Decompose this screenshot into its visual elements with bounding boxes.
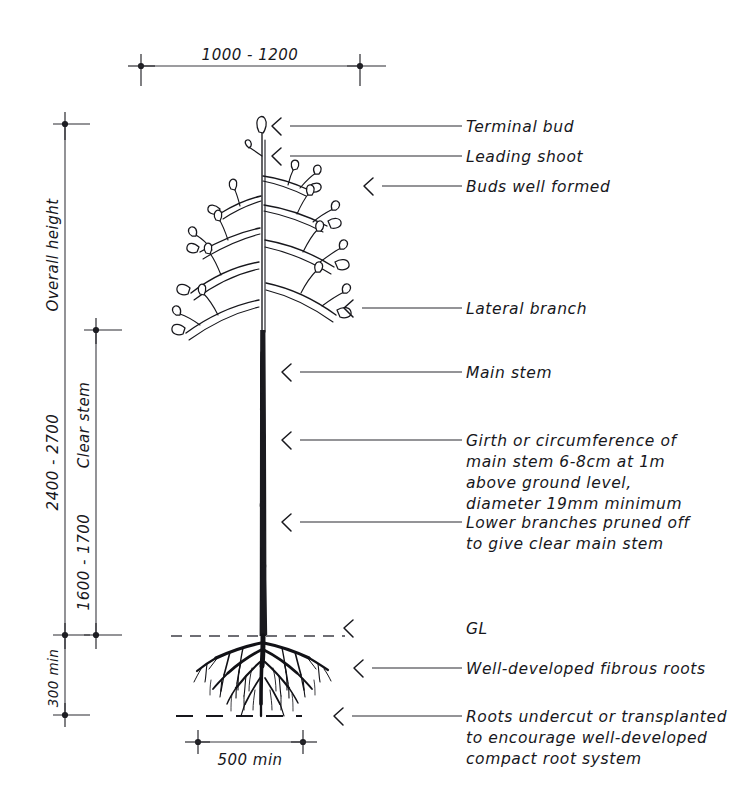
callout-buds-well-formed-label: Buds well formed bbox=[466, 178, 610, 196]
tree-crown bbox=[172, 117, 351, 340]
callout-ground-level: GL bbox=[344, 620, 488, 638]
diagram-canvas: 1000 - 1200 Overall height 2400 - 2700 3… bbox=[0, 0, 752, 810]
callout-terminal-bud: Terminal bud bbox=[272, 118, 574, 136]
callout-lateral-branch: Lateral branch bbox=[344, 300, 587, 318]
callout-girth-line-2: main stem 6-8cm at 1m bbox=[466, 453, 665, 471]
callout-main-stem: Main stem bbox=[282, 364, 552, 382]
dimension-clear-stem-value: 1600 - 1700 bbox=[75, 514, 93, 611]
callout-girth-line-4: diameter 19mm minimum bbox=[466, 495, 682, 513]
callout-roots-undercut: Roots undercut or transplanted to encour… bbox=[334, 708, 727, 768]
main-stem bbox=[260, 330, 268, 636]
terminal-bud-shape bbox=[257, 117, 266, 133]
callout-girth-line-3: above ground level, bbox=[466, 474, 632, 492]
dimension-overall-height-value: 2400 - 2700 bbox=[44, 414, 62, 511]
dimension-clear-stem: Clear stem 1600 - 1700 bbox=[75, 318, 122, 649]
callout-terminal-bud-label: Terminal bud bbox=[466, 118, 574, 136]
callout-buds-well-formed: Buds well formed bbox=[364, 178, 610, 196]
root-system bbox=[194, 636, 331, 716]
callout-roots-undercut-line-1: Roots undercut or transplanted bbox=[466, 708, 727, 726]
callout-leading-shoot: Leading shoot bbox=[272, 148, 583, 166]
callout-lateral-branch-label: Lateral branch bbox=[466, 300, 587, 318]
callout-leading-shoot-label: Leading shoot bbox=[466, 148, 583, 166]
callout-girth-line-1: Girth or circumference of bbox=[466, 432, 679, 450]
callout-ground-level-label: GL bbox=[466, 620, 488, 638]
dimension-crown-width: 1000 - 1200 bbox=[128, 46, 386, 86]
callout-fibrous-roots-label: Well-developed fibrous roots bbox=[466, 660, 706, 678]
dimension-overall-height-name: Overall height bbox=[44, 198, 62, 312]
callout-lower-branches-line-1: Lower branches pruned off bbox=[466, 514, 692, 532]
dimension-root-spread: 500 min bbox=[185, 730, 317, 769]
callout-lower-branches-line-2: to give clear main stem bbox=[466, 535, 664, 553]
callout-roots-undercut-line-2: to encourage well-developed bbox=[466, 729, 708, 747]
dimension-clear-stem-name: Clear stem bbox=[75, 382, 93, 469]
dimension-root-spread-label: 500 min bbox=[217, 751, 282, 769]
dimension-crown-width-label: 1000 - 1200 bbox=[202, 46, 299, 64]
callout-main-stem-label: Main stem bbox=[466, 364, 552, 382]
callout-girth: Girth or circumference of main stem 6-8c… bbox=[282, 432, 682, 513]
dimension-root-depth-label: 300 min bbox=[45, 649, 61, 707]
callout-fibrous-roots: Well-developed fibrous roots bbox=[354, 660, 706, 678]
callout-roots-undercut-line-3: compact root system bbox=[466, 750, 642, 768]
callout-lower-branches: Lower branches pruned off to give clear … bbox=[282, 514, 692, 553]
